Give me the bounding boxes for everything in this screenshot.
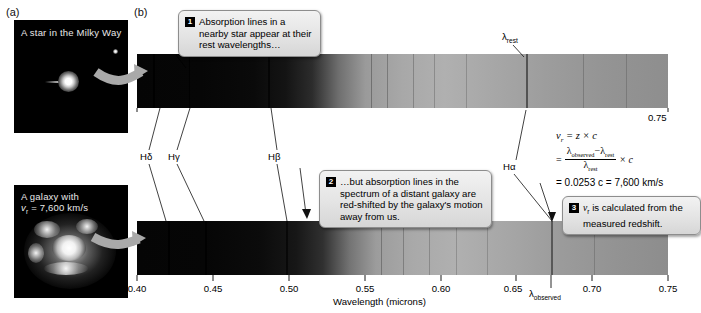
line-label-H-gamma: Hγ [168,151,180,162]
lambda-rest-subscript: rest [507,37,518,44]
redshift-fraction: λobserved−λrest λrest [565,146,617,172]
lambda-rest-leader [513,45,524,57]
fraction-numerator: λobserved−λrest [565,146,617,160]
axis-tick-4: 0.60 [421,283,461,294]
galaxy-to-spectrum-arrow [93,231,146,246]
callout-1-number: 1 [185,17,195,27]
line-label-H-delta: Hδ [140,151,152,162]
lambda-rest-label: λrest [502,31,518,44]
equation-line-1: vr = z × c [556,130,663,144]
axis-tick-2: 0.50 [269,283,309,294]
line-label-H-alpha: Hα [503,161,515,172]
callout-1-leader [176,55,186,68]
callout-2-text: …but absorption lines in the spectrum of… [340,176,484,222]
callout-3-text: vr is calculated from the measured redsh… [583,202,693,229]
callout-2[interactable]: 2 …but absorption lines in the spectrum … [319,170,492,228]
equation-line-2: = λobserved−λrest λrest × c [556,146,663,172]
axis-tick-6: 0.70 [572,283,612,294]
equation-line-2-tail: × c [619,154,633,165]
redshift-equation: vr = z × c = λobserved−λrest λrest × c =… [556,130,663,188]
lambda-observed-subscript: observed [534,294,561,301]
numerator-lambda-rest-sub: rest [605,151,614,158]
callout-3-velocity-rest: is calculated from the measured redshift… [583,202,683,229]
axis-tick-1: 0.45 [193,283,233,294]
equation-lhs-subscript: r [561,136,564,144]
axis-tick-5: 0.65 [493,283,533,294]
callout-2-number: 2 [326,177,336,187]
callout-1-text: Absorption lines in a nearby star appear… [199,16,313,51]
axis-tick-7: 0.75 [648,283,688,294]
axis-title: Wavelength (microns) [333,296,426,307]
numerator-lambda-observed-sub: observed [572,151,595,158]
top-axis-ticks [137,108,668,112]
axis-ticks [137,275,668,281]
axis-tick-3: 0.55 [345,283,385,294]
denominator-lambda-sub: rest [588,165,597,172]
star-to-spectrum-arrow [96,64,148,80]
line-label-leaders [149,108,287,221]
callout-3[interactable]: 3 vr is calculated from the measured red… [562,196,701,235]
callout-3-number: 3 [569,203,579,213]
line-label-leader-Halpha [514,110,552,221]
callout-1[interactable]: 1 Absorption lines in a nearby star appe… [178,10,321,57]
equation-line-1-rhs: = z × c [566,130,597,141]
axis-tick-0: 0.40 [117,283,157,294]
equation-line-3: = 0.0253 c = 7,600 km/s [556,177,663,188]
fraction-denominator: λrest [581,160,599,173]
line-label-H-beta: Hβ [268,151,280,162]
callout-2-leader [300,168,311,219]
lambda-observed-label: λobserved [529,288,561,301]
equation-line-2-equals: = [556,154,562,165]
